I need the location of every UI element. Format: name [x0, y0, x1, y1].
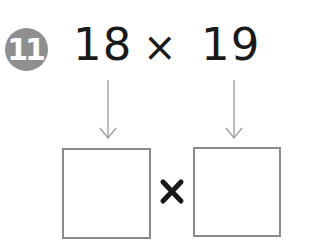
right-operand: 19	[201, 20, 260, 70]
problem-number-badge: 11	[5, 28, 48, 71]
answer-box-right[interactable]	[193, 147, 281, 237]
multiply-icon	[159, 176, 185, 206]
left-operand: 18	[73, 20, 132, 70]
multiply-operator: ×	[143, 22, 177, 72]
down-arrow-icon	[98, 80, 118, 140]
down-arrow-icon	[224, 80, 244, 140]
answer-box-left[interactable]	[62, 148, 151, 239]
